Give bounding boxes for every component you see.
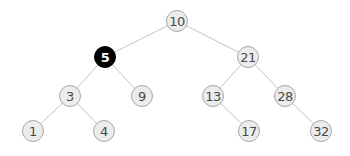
tree-node-28: 28: [274, 85, 296, 107]
tree-diagram: 10 5 21 3 9 13 28 1 4 17 32: [0, 0, 350, 156]
tree-node-1: 1: [22, 120, 44, 142]
tree-node-32: 32: [310, 120, 332, 142]
tree-node-13: 13: [202, 85, 224, 107]
tree-node-17: 17: [238, 120, 260, 142]
edge-10-5: [105, 21, 177, 57]
tree-node-4: 4: [93, 120, 115, 142]
tree-node-9: 9: [131, 85, 153, 107]
tree-node-10: 10: [166, 10, 188, 32]
tree-node-3: 3: [59, 85, 81, 107]
tree-node-21: 21: [237, 46, 259, 68]
tree-node-5-highlighted: 5: [94, 46, 116, 68]
